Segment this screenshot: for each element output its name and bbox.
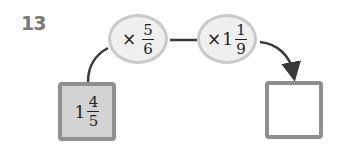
denominator: 9 — [236, 41, 246, 57]
numerator: 5 — [143, 22, 153, 38]
operation-oval-1: × 5 6 — [108, 14, 168, 64]
numerator: 4 — [89, 94, 99, 110]
start-value-box: 1 4 5 — [58, 82, 116, 141]
answer-box[interactable] — [265, 81, 323, 139]
whole-number: 1 — [222, 29, 233, 49]
fraction: 4 5 — [87, 94, 99, 129]
fraction: 5 6 — [142, 22, 154, 57]
arrow-icon — [260, 42, 293, 72]
denominator: 6 — [143, 41, 153, 57]
denominator: 5 — [89, 113, 99, 129]
multiply-sign: × — [122, 29, 136, 49]
numerator: 1 — [236, 22, 246, 38]
start-connector — [88, 48, 108, 82]
whole-number: 1 — [75, 102, 86, 122]
multiply-sign: × — [207, 29, 221, 49]
fraction: 1 9 — [235, 22, 247, 57]
operation-oval-2: × 1 1 9 — [197, 14, 257, 64]
